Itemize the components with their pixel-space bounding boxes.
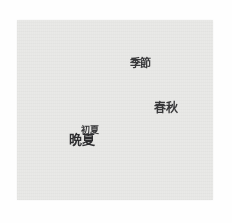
page: 季節 春秋 初夏 晩夏 [0,0,232,223]
word-label: 春秋 [154,102,177,114]
scatter-plot-canvas: 季節 春秋 初夏 晩夏 [17,20,213,200]
word-label: 季節 [130,58,151,69]
word-label-cluster-bottom: 晩夏 [69,132,94,145]
